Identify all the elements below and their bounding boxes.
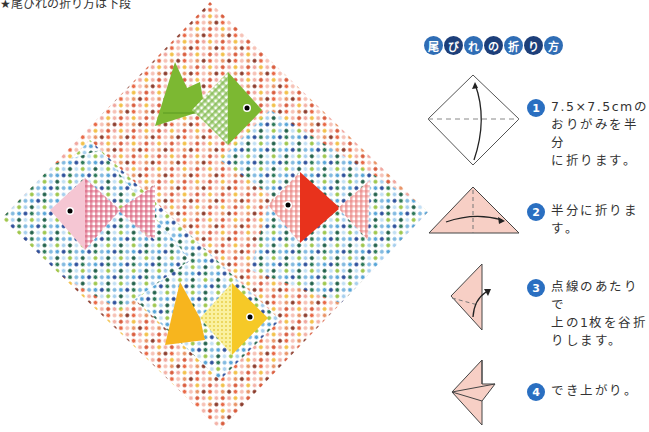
step-number-badge: 3 bbox=[527, 279, 545, 297]
step-text-line: 7.5×7.5cmの bbox=[551, 98, 649, 116]
step-text-line: 上の1枚を谷折 bbox=[551, 314, 649, 332]
step-number-badge: 4 bbox=[527, 383, 545, 401]
step-text-line: 半分に折ります。 bbox=[551, 202, 649, 238]
step-1: 1 7.5×7.5cmの おりがみを半分 に折ります。 bbox=[527, 98, 649, 170]
step-text-line: 点線のあたりで bbox=[551, 278, 649, 314]
step-3: 3 点線のあたりで 上の1枚を谷折 りします。 bbox=[527, 278, 649, 350]
step-text-line: でき上がり。 bbox=[551, 382, 638, 400]
step-number-badge: 1 bbox=[527, 99, 545, 117]
step3-diagram bbox=[451, 264, 491, 330]
step1-diagram bbox=[428, 75, 519, 165]
step-4: 4 でき上がり。 bbox=[527, 382, 638, 401]
step-2: 2 半分に折ります。 bbox=[527, 202, 649, 238]
step-text-line: りします。 bbox=[551, 332, 649, 350]
step-number-badge: 2 bbox=[527, 203, 545, 221]
step-text-line: に折ります。 bbox=[551, 152, 649, 170]
step4-diagram bbox=[452, 360, 495, 425]
step-text-line: おりがみを半分 bbox=[551, 116, 649, 152]
step2-diagram bbox=[429, 187, 519, 233]
